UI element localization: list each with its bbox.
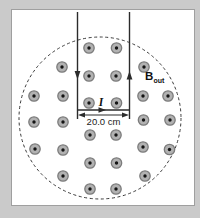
dimension-label: 20.0 cm bbox=[87, 116, 121, 127]
current-label: I bbox=[98, 96, 104, 108]
field-label: B bbox=[145, 70, 153, 82]
field-out-dot-center bbox=[114, 187, 117, 190]
field-out-dot-center bbox=[88, 133, 91, 136]
field-out-dot-center bbox=[88, 161, 91, 164]
field-out-dot-center bbox=[33, 147, 36, 150]
field-out-dot-center bbox=[61, 148, 64, 151]
field-out-dot-center bbox=[143, 174, 146, 177]
field-out-dot-center bbox=[32, 120, 35, 123]
field-out-dot-center bbox=[168, 118, 171, 121]
field-out-dot-center bbox=[115, 101, 118, 104]
field-out-dot-center bbox=[87, 46, 90, 49]
field-out-dot-center bbox=[87, 74, 90, 77]
field-out-dot-center bbox=[115, 46, 118, 49]
field-out-dot-center bbox=[168, 148, 171, 151]
field-out-dot-center bbox=[141, 94, 144, 97]
field-label-subscript: out bbox=[154, 77, 166, 84]
figure-frame bbox=[12, 10, 195, 206]
field-out-dot-center bbox=[114, 133, 117, 136]
field-out-dot-center bbox=[142, 118, 145, 121]
field-out-dot-center bbox=[114, 74, 117, 77]
field-out-dot-center bbox=[32, 94, 35, 97]
field-out-dot-center bbox=[142, 65, 145, 68]
field-out-dot-center bbox=[61, 174, 64, 177]
field-out-dot-center bbox=[88, 187, 91, 190]
field-out-dot-center bbox=[87, 101, 90, 104]
diagram-canvas: I 20.0 cm B out bbox=[0, 0, 200, 218]
field-out-dot-center bbox=[115, 161, 118, 164]
field-out-dot-center bbox=[60, 65, 63, 68]
field-out-dot-center bbox=[61, 120, 64, 123]
field-out-dot-center bbox=[61, 94, 64, 97]
field-out-dot-center bbox=[141, 145, 144, 148]
field-out-dot-center bbox=[166, 94, 169, 97]
